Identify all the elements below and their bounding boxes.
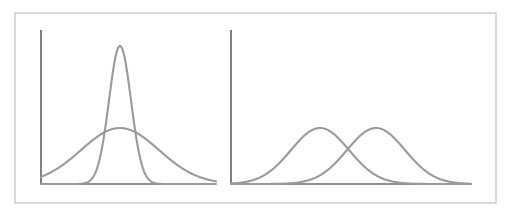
outer-frame bbox=[15, 13, 496, 203]
distribution-figure bbox=[0, 0, 512, 216]
figure-root bbox=[0, 0, 512, 216]
